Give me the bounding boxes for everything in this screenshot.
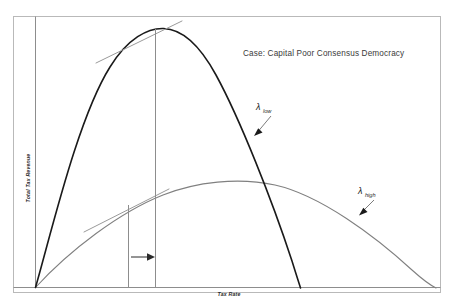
lambda-low-symbol: λ bbox=[255, 102, 260, 112]
tangent-line-lambda-high bbox=[84, 189, 169, 232]
curve-lambda-low bbox=[36, 28, 301, 288]
shift-arrow bbox=[131, 253, 155, 261]
curve-lambda-high bbox=[36, 181, 437, 288]
lambda-low-subscript: low bbox=[263, 108, 272, 114]
y-axis-title: Total Tax Revenue bbox=[25, 154, 31, 203]
lambda-high-label: λ high bbox=[357, 186, 376, 198]
x-axis-title: Tax Rate bbox=[217, 291, 240, 297]
pointer-lambda-high bbox=[359, 200, 374, 216]
lambda-low-label: λ low bbox=[255, 102, 272, 114]
lambda-high-symbol: λ bbox=[357, 186, 362, 196]
pointer-lambda-low bbox=[254, 116, 271, 136]
lambda-high-subscript: high bbox=[365, 192, 376, 198]
tangent-line-lambda-low bbox=[96, 21, 182, 63]
laffer-curve-figure: Case: Capital Poor Consensus Democracy T… bbox=[0, 0, 454, 308]
case-label: Case: Capital Poor Consensus Democracy bbox=[243, 49, 405, 58]
